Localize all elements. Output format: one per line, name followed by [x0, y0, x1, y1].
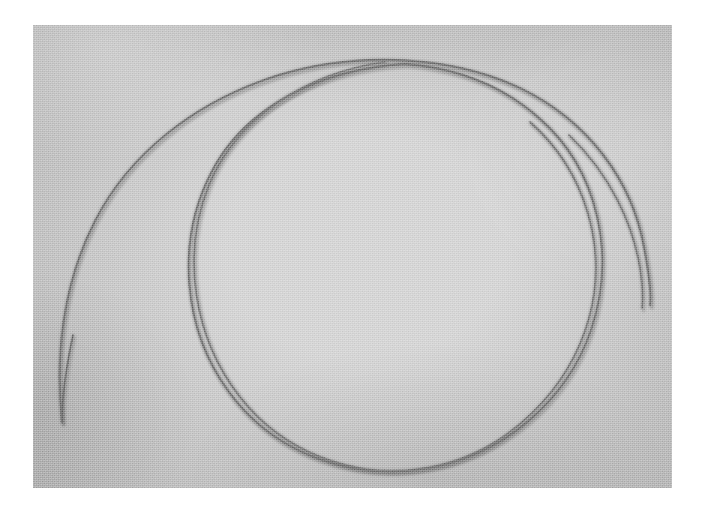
photo-image-area	[33, 25, 672, 488]
photograph-frame	[0, 0, 707, 518]
surface-tonal-variation	[33, 25, 672, 488]
